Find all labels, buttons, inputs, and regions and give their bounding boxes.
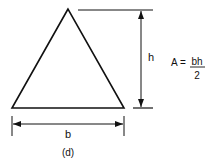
formula-lhs: A = — [171, 57, 186, 68]
figure-label: (d) — [62, 147, 74, 158]
triangle-area-diagram: h b (d) A = bh 2 — [0, 0, 210, 165]
base-label: b — [65, 128, 71, 140]
formula-numerator: bh — [191, 56, 202, 67]
height-label: h — [148, 51, 154, 63]
formula-denominator: 2 — [194, 70, 200, 81]
triangle-shape — [12, 9, 124, 108]
